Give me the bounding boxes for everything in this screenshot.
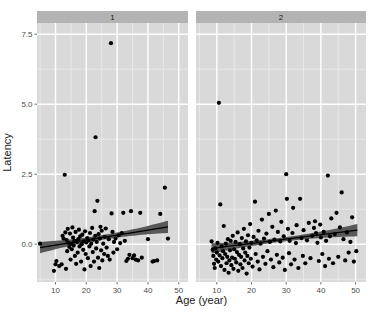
x-tick-label: 30 bbox=[113, 286, 122, 295]
data-point bbox=[305, 238, 309, 242]
data-point bbox=[129, 209, 133, 213]
data-point bbox=[272, 238, 276, 242]
data-point bbox=[347, 251, 351, 255]
data-point bbox=[345, 230, 349, 234]
data-point bbox=[86, 238, 90, 242]
data-point bbox=[310, 234, 314, 238]
strip-label-1: 1 bbox=[110, 13, 115, 22]
data-point bbox=[333, 232, 337, 236]
data-point bbox=[292, 258, 296, 262]
data-point bbox=[96, 256, 100, 260]
data-point bbox=[83, 229, 87, 233]
data-point bbox=[315, 241, 319, 245]
y-axis-title: Latency bbox=[1, 133, 13, 172]
data-point bbox=[212, 262, 216, 266]
data-point bbox=[77, 228, 81, 232]
data-point bbox=[236, 269, 240, 273]
data-point bbox=[225, 255, 229, 259]
data-point bbox=[211, 254, 215, 258]
data-point bbox=[256, 229, 260, 233]
data-point bbox=[276, 230, 280, 234]
data-point bbox=[65, 249, 69, 253]
data-point bbox=[233, 240, 237, 244]
data-point bbox=[288, 239, 292, 243]
data-point bbox=[52, 269, 56, 273]
data-point bbox=[222, 224, 226, 228]
chart-container: 11020304050210203040500.02.55.07.5Age (y… bbox=[0, 0, 369, 325]
data-point bbox=[318, 223, 322, 227]
data-point bbox=[216, 259, 220, 263]
data-point bbox=[132, 253, 136, 257]
data-point bbox=[239, 255, 243, 259]
data-point bbox=[313, 219, 317, 223]
data-point bbox=[246, 233, 250, 237]
data-point bbox=[336, 255, 340, 259]
data-point bbox=[275, 253, 279, 257]
data-point bbox=[94, 246, 98, 250]
data-point bbox=[334, 211, 338, 215]
data-point bbox=[251, 235, 255, 239]
data-point bbox=[291, 206, 295, 210]
data-point bbox=[279, 220, 283, 224]
data-point bbox=[92, 259, 96, 263]
data-point bbox=[238, 262, 242, 266]
data-point bbox=[254, 252, 258, 256]
data-point bbox=[233, 257, 237, 261]
data-point bbox=[248, 222, 252, 226]
data-point bbox=[269, 258, 273, 262]
data-point bbox=[331, 261, 335, 265]
data-point bbox=[88, 231, 92, 235]
data-point bbox=[343, 258, 347, 262]
data-point bbox=[127, 253, 131, 257]
y-tick-label: 7.5 bbox=[21, 30, 33, 39]
data-point bbox=[108, 258, 112, 262]
data-point bbox=[281, 256, 285, 260]
x-tick-label: 20 bbox=[247, 286, 256, 295]
data-point bbox=[270, 225, 274, 229]
data-point bbox=[308, 256, 312, 260]
x-tick-label: 10 bbox=[51, 286, 60, 295]
data-point bbox=[136, 258, 140, 262]
data-point bbox=[104, 226, 108, 230]
data-point bbox=[97, 232, 101, 236]
x-tick-label: 30 bbox=[282, 286, 291, 295]
data-point bbox=[210, 239, 214, 243]
data-point bbox=[242, 227, 246, 231]
data-point bbox=[247, 245, 251, 249]
data-point bbox=[282, 234, 286, 238]
data-point bbox=[100, 258, 104, 262]
data-point bbox=[250, 265, 254, 269]
data-point bbox=[341, 237, 345, 241]
data-point bbox=[271, 265, 275, 269]
data-point bbox=[222, 268, 226, 272]
data-point bbox=[93, 209, 97, 213]
data-point bbox=[253, 200, 257, 204]
data-point bbox=[328, 234, 332, 238]
data-point bbox=[219, 264, 223, 268]
data-point bbox=[101, 242, 105, 246]
data-point bbox=[264, 231, 268, 235]
data-point bbox=[262, 237, 266, 241]
data-point bbox=[68, 258, 72, 262]
x-tick-label: 40 bbox=[143, 286, 152, 295]
data-point bbox=[54, 259, 58, 263]
data-point bbox=[100, 229, 104, 233]
data-point bbox=[155, 258, 159, 262]
data-point bbox=[70, 225, 74, 229]
data-point bbox=[97, 266, 101, 270]
data-point bbox=[249, 257, 253, 261]
data-point bbox=[115, 247, 119, 251]
data-point bbox=[329, 216, 333, 220]
data-point bbox=[103, 235, 107, 239]
data-point bbox=[242, 258, 246, 262]
data-point bbox=[319, 235, 323, 239]
data-point bbox=[89, 264, 93, 268]
data-point bbox=[244, 239, 248, 243]
data-point bbox=[63, 173, 67, 177]
data-point bbox=[229, 239, 233, 243]
data-point bbox=[256, 259, 260, 263]
data-point bbox=[213, 266, 217, 270]
x-tick-label: 50 bbox=[351, 286, 360, 295]
data-point bbox=[68, 231, 72, 235]
data-point bbox=[70, 247, 74, 251]
